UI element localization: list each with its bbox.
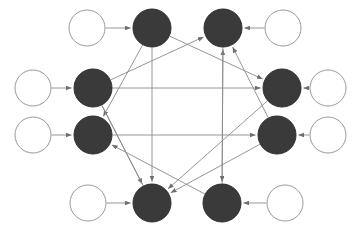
node-circle (70, 185, 106, 221)
node-circle (267, 185, 303, 221)
node-circle (74, 116, 112, 154)
edges-layer (52, 28, 310, 203)
graph-edge (222, 48, 223, 182)
graph-node-out-top-right (265, 10, 301, 46)
graph-canvas (0, 0, 359, 230)
graph-node-core-lower-left (74, 116, 112, 154)
graph-node-out-mid-lower-right (310, 117, 346, 153)
node-circle (133, 184, 171, 222)
graph-node-in-mid-lower-left (15, 117, 51, 153)
graph-node-core-upper-right (263, 69, 301, 107)
node-circle (310, 70, 346, 106)
node-circle (203, 184, 241, 222)
node-circle (15, 70, 51, 106)
graph-node-out-mid-upper-right (310, 70, 346, 106)
graph-node-core-bottom-left (133, 184, 171, 222)
node-circle (133, 9, 171, 47)
node-circle (263, 69, 301, 107)
graph-node-in-mid-upper-left (15, 70, 51, 106)
node-circle (258, 116, 296, 154)
graph-node-out-bottom-right (267, 185, 303, 221)
graph-figure (0, 0, 359, 230)
node-circle (310, 117, 346, 153)
node-circle (265, 10, 301, 46)
node-circle (204, 9, 242, 47)
graph-node-core-lower-right (258, 116, 296, 154)
graph-node-in-top-left (69, 10, 105, 46)
graph-node-core-top-right (204, 9, 242, 47)
node-circle (15, 117, 51, 153)
graph-node-core-upper-left (74, 69, 112, 107)
graph-edge (168, 101, 267, 189)
node-circle (74, 69, 112, 107)
graph-node-in-bottom-left (70, 185, 106, 221)
graph-edge (233, 47, 269, 117)
graph-node-core-top-left (133, 9, 171, 47)
graph-node-core-bottom-right (203, 184, 241, 222)
node-circle (69, 10, 105, 46)
